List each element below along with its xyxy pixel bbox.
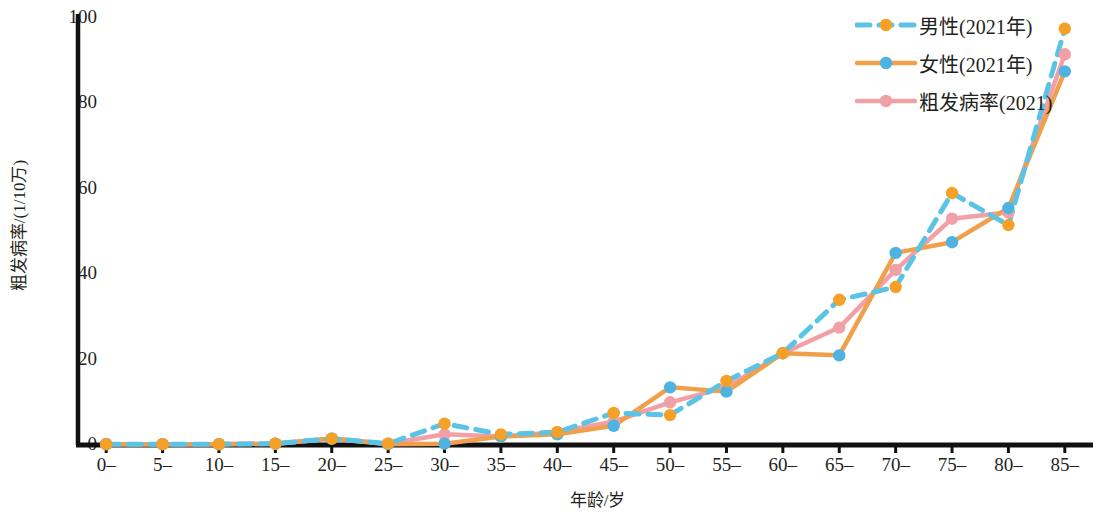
- x-axis-title-text: 年龄/岁: [570, 486, 626, 511]
- data-point: [1002, 219, 1014, 231]
- legend-label: 男性(2021年): [919, 11, 1032, 40]
- data-point: [889, 264, 901, 276]
- chart-container: 粗发病率/(1/10万) 020406080100 0–5–10–15–20–2…: [0, 0, 1105, 518]
- data-point: [269, 438, 281, 450]
- data-point: [664, 409, 676, 421]
- legend-label: 粗发病率(2021): [919, 87, 1052, 116]
- legend-swatch: [855, 15, 917, 35]
- data-point: [720, 385, 732, 397]
- legend-swatch: [855, 53, 917, 73]
- data-point: [720, 375, 732, 387]
- data-point: [664, 381, 676, 393]
- data-point: [833, 321, 845, 333]
- x-axis-title: 年龄/岁: [0, 486, 1105, 511]
- data-point: [156, 438, 168, 450]
- data-point: [326, 432, 338, 444]
- legend-marker: [880, 57, 892, 69]
- data-point: [946, 212, 958, 224]
- data-point: [1059, 48, 1071, 60]
- data-point: [213, 438, 225, 450]
- data-point: [607, 420, 619, 432]
- chart-legend: 男性(2021年)女性(2021年)粗发病率(2021): [855, 6, 1052, 120]
- data-point: [946, 236, 958, 248]
- data-point: [607, 407, 619, 419]
- legend-item[interactable]: 女性(2021年): [855, 44, 1052, 82]
- legend-marker: [880, 19, 892, 31]
- data-point: [889, 281, 901, 293]
- legend-label: 女性(2021年): [919, 49, 1032, 78]
- data-point: [833, 294, 845, 306]
- data-point: [495, 428, 507, 440]
- data-point: [946, 187, 958, 199]
- data-point: [1059, 22, 1071, 34]
- legend-item[interactable]: 男性(2021年): [855, 6, 1052, 44]
- legend-item[interactable]: 粗发病率(2021): [855, 82, 1052, 120]
- data-point: [833, 349, 845, 361]
- data-point: [438, 438, 450, 450]
- data-point: [382, 438, 394, 450]
- x-axis-tick-label: 85–: [1030, 455, 1100, 474]
- series-line-1: [106, 71, 1065, 444]
- data-point: [438, 417, 450, 429]
- legend-marker: [880, 95, 892, 107]
- data-point: [777, 347, 789, 359]
- data-point: [100, 438, 112, 450]
- data-point: [551, 426, 563, 438]
- data-point: [664, 396, 676, 408]
- legend-swatch: [855, 91, 917, 111]
- data-point: [889, 247, 901, 259]
- data-point: [1002, 202, 1014, 214]
- data-point: [1059, 65, 1071, 77]
